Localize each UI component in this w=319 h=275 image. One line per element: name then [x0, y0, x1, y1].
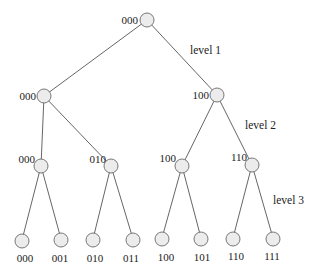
level-1-label: level 1 [190, 44, 221, 56]
leaf-node-2 [86, 233, 100, 247]
label-leaf-0: 000 [17, 252, 34, 264]
level-3-label: level 3 [273, 194, 304, 206]
leaf-node-1 [54, 233, 68, 247]
node-l2-0 [34, 159, 48, 173]
tree-nodes [15, 13, 280, 248]
label-leaf-3: 011 [123, 252, 139, 264]
edge-l2d-leaf7 [252, 165, 273, 238]
label-leaf-1: 001 [52, 252, 69, 264]
level-labels: level 1 level 2 level 3 [190, 44, 304, 206]
binary-tree-diagram: 000 000 100 000 010 100 110 000 001 010 … [0, 0, 319, 275]
node-l2-1 [104, 159, 118, 173]
label-l1-1: 100 [193, 89, 210, 101]
label-leaf-2: 010 [87, 252, 104, 264]
label-leaf-7: 111 [264, 250, 280, 262]
edge-l2d-leaf6 [233, 165, 252, 238]
leaf-node-5 [194, 232, 208, 246]
label-l2-0: 000 [19, 153, 36, 165]
edge-l2c-leaf4 [162, 166, 182, 238]
leaf-node-0 [15, 234, 29, 248]
edge-l2b-leaf2 [93, 166, 111, 239]
label-l1-0: 000 [20, 90, 37, 102]
edge-l1a-l2a [41, 96, 44, 166]
node-labels: 000 000 100 000 010 100 110 000 001 010 … [17, 14, 280, 264]
label-l2-1: 010 [90, 153, 107, 165]
node-l2-3 [245, 158, 259, 172]
label-leaf-5: 101 [194, 251, 211, 263]
edge-root-l1b [147, 20, 217, 95]
node-root [140, 13, 154, 27]
edge-l2a-leaf0 [22, 166, 41, 240]
level-2-label: level 2 [245, 119, 276, 131]
leaf-node-7 [266, 232, 280, 246]
edge-l2a-leaf1 [41, 166, 61, 239]
label-root: 000 [122, 14, 139, 26]
edge-l1b-l2c [182, 95, 217, 166]
node-l1-1 [210, 88, 224, 102]
leaf-node-3 [126, 233, 140, 247]
edge-l2b-leaf3 [111, 166, 133, 239]
label-l2-2: 100 [160, 152, 177, 164]
edge-root-l1a [44, 20, 147, 96]
label-leaf-4: 100 [158, 251, 175, 263]
leaf-node-4 [155, 232, 169, 246]
tree-edges [22, 20, 273, 240]
node-l2-2 [175, 159, 189, 173]
label-leaf-6: 110 [228, 250, 245, 262]
leaf-node-6 [226, 232, 240, 246]
label-l2-3: 110 [231, 151, 248, 163]
node-l1-0 [37, 89, 51, 103]
edge-l2c-leaf5 [182, 166, 201, 238]
